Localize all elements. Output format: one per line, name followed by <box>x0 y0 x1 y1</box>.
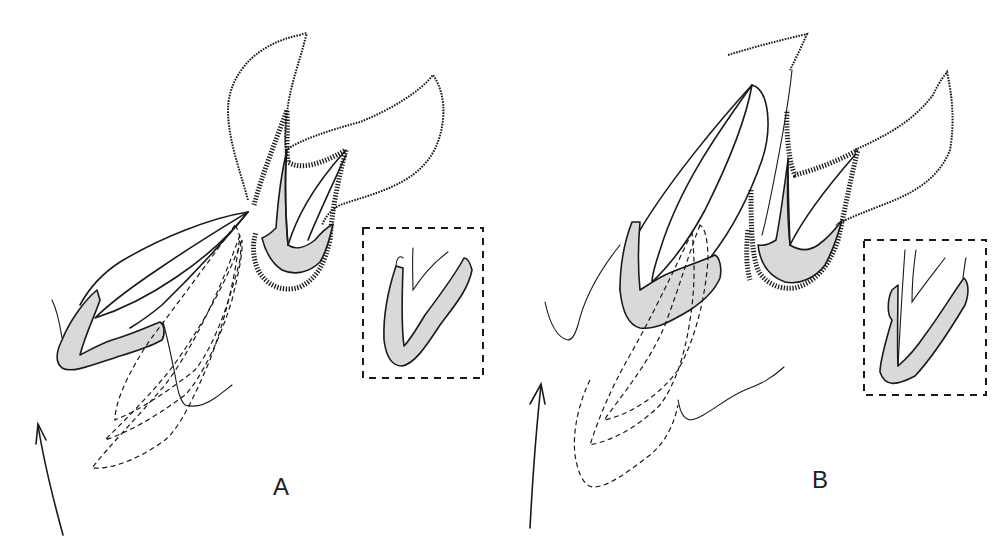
panel-b-lower-tooth <box>545 85 784 487</box>
panel-a-upper-tooth <box>228 33 443 289</box>
panel-label-b: B <box>812 468 828 492</box>
panel-a-inset <box>363 228 483 378</box>
panel-a-force-arrow-icon <box>36 424 63 535</box>
dental-diagram <box>0 0 1007 555</box>
panel-b-force-arrow-icon <box>530 384 545 528</box>
panel-b-inset <box>864 240 986 395</box>
panel-a-lower-tooth <box>52 212 248 468</box>
panel-label-a: A <box>273 475 289 499</box>
panel-a <box>36 33 483 535</box>
panel-b <box>530 34 986 528</box>
